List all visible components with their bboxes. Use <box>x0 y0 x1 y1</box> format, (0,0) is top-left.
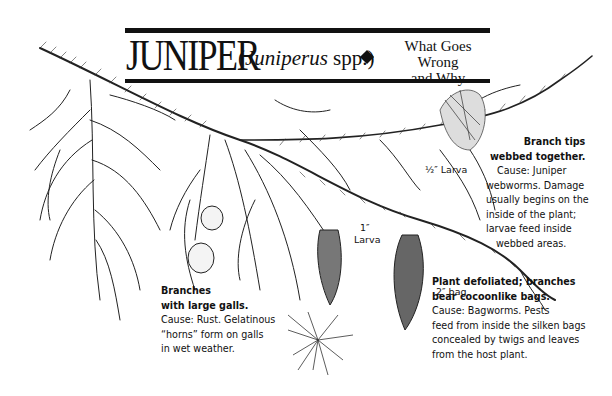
label-larva: Larva <box>354 234 380 246</box>
title-rule-bottom <box>125 79 490 83</box>
title-scientific-name: (Juniperus spp.) <box>238 46 375 71</box>
label-half-inch-larva: ½″ Larva <box>425 164 467 176</box>
callout-webworm: Branch tips webbed together. <box>490 135 585 164</box>
juniper-illustration: JUNIPER (Juniperus spp.) What Goes Wrong… <box>0 0 612 396</box>
callout-webworm-body: Cause: Juniper webworms. Damage usually … <box>486 164 589 251</box>
label-one-inch: 1″ <box>360 222 370 234</box>
rust-galls <box>188 206 223 273</box>
label-two-inch-bag: 2″ bag <box>436 286 467 298</box>
callout-rust: Branches with large galls. Cause: Rust. … <box>161 284 275 357</box>
witches-broom <box>288 312 353 375</box>
webbed-branch-tips <box>440 90 485 150</box>
